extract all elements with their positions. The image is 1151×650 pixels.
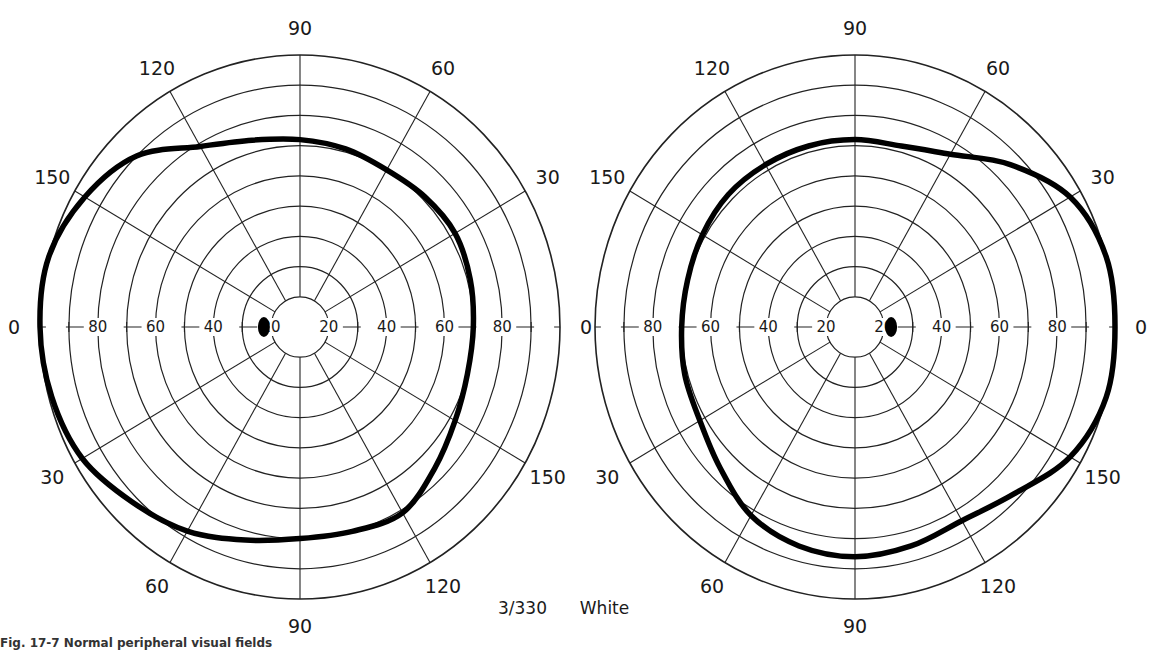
field-boundary-isopter (682, 140, 1115, 557)
right-eye-field-chart: 8060402020406080030609012015030609012015… (589, 17, 1147, 637)
axis-tick-label: 20 (319, 318, 338, 336)
meridian-330 (325, 342, 525, 463)
figure-caption: Fig. 17-7 Normal peripheral visual field… (0, 636, 272, 650)
meridian-label: 120 (425, 575, 461, 597)
meridian-label: 60 (145, 575, 169, 597)
field-boundary-isopter (40, 139, 474, 541)
meridian-label: 60 (986, 57, 1010, 79)
meridian-60 (314, 91, 430, 300)
meridian-210 (630, 342, 830, 463)
axis-tick-label: 80 (493, 318, 512, 336)
meridian-30 (325, 191, 525, 312)
stimulus-color: White (580, 598, 629, 618)
meridian-label: 0 (8, 316, 20, 338)
meridian-240 (725, 353, 841, 562)
axis-tick-label: 40 (759, 318, 778, 336)
meridian-300 (314, 353, 430, 562)
meridian-label: 30 (536, 166, 560, 188)
stimulus-size: 3/330 (498, 598, 547, 618)
axis-tick-label: 40 (204, 318, 223, 336)
meridian-label: 90 (288, 17, 312, 39)
axis-tick-label: 40 (377, 318, 396, 336)
meridian-label: 150 (589, 166, 625, 188)
meridian-label: 60 (700, 575, 724, 597)
axis-tick-label: 60 (701, 318, 720, 336)
axis-tick-label: 80 (88, 318, 107, 336)
meridian-label: 0 (1135, 316, 1147, 338)
stimulus-label: 3/330 White (498, 598, 629, 618)
meridian-label: 120 (694, 57, 730, 79)
axis-tick-label: 60 (990, 318, 1009, 336)
axis-tick-label: 80 (643, 318, 662, 336)
meridian-label: 30 (1091, 166, 1115, 188)
meridian-label: 0 (580, 316, 592, 338)
meridian-150 (630, 191, 830, 312)
meridian-label: 30 (40, 466, 64, 488)
meridian-330 (880, 342, 1080, 463)
meridian-label: 90 (843, 17, 867, 39)
axis-tick-label: 60 (435, 318, 454, 336)
meridian-label: 60 (431, 57, 455, 79)
meridian-210 (75, 342, 275, 463)
meridian-label: 120 (980, 575, 1016, 597)
axis-tick-label: 20 (817, 318, 836, 336)
meridian-30 (880, 191, 1080, 312)
meridian-120 (170, 91, 286, 300)
meridian-label: 150 (530, 466, 566, 488)
blind-spot (258, 317, 270, 337)
blind-spot (885, 317, 897, 337)
meridian-label: 150 (34, 166, 70, 188)
left-eye-field-chart: 8060402020406080030609012015003060901201… (8, 17, 592, 637)
meridian-150 (75, 191, 275, 312)
meridian-300 (869, 353, 985, 562)
meridian-120 (725, 91, 841, 300)
meridian-label: 90 (843, 615, 867, 637)
axis-tick-label: 40 (932, 318, 951, 336)
meridian-label: 120 (139, 57, 175, 79)
axis-tick-label: 60 (146, 318, 165, 336)
meridian-label: 30 (595, 466, 619, 488)
meridian-label: 90 (288, 615, 312, 637)
axis-tick-label: 80 (1048, 318, 1067, 336)
meridian-60 (869, 91, 985, 300)
meridian-label: 150 (1085, 466, 1121, 488)
